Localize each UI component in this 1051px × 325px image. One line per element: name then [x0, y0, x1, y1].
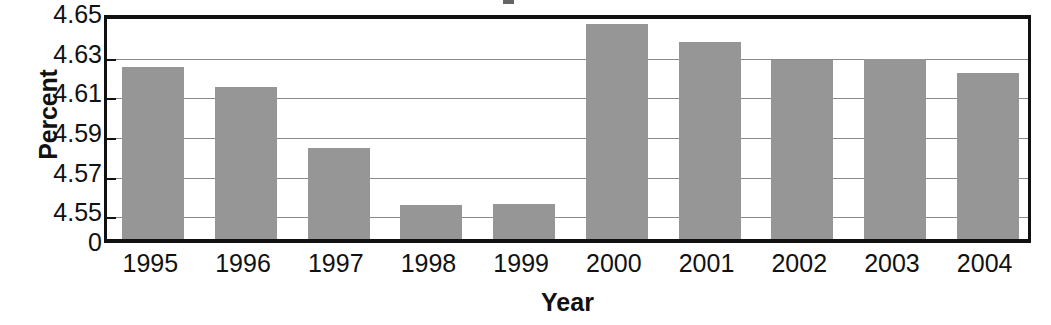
- cut-off-title-fragment: [503, 0, 514, 4]
- x-axis-title: Year: [104, 288, 1031, 317]
- y-axis-tick-mark: [107, 59, 116, 61]
- y-axis-tick-mark: [107, 98, 116, 100]
- x-axis-tick-labels: 1995199619971998199920002001200220032004: [104, 249, 1031, 285]
- x-axis-tick-label: 1997: [289, 249, 382, 278]
- bar: [586, 24, 648, 239]
- bar: [864, 59, 926, 239]
- y-axis-tick-label: 0: [36, 230, 102, 255]
- x-axis-tick-label: 1995: [104, 249, 197, 278]
- y-axis-tick-mark: [107, 178, 116, 180]
- x-axis-tick-label: 1999: [475, 249, 568, 278]
- x-axis-tick-label: 2000: [568, 249, 661, 278]
- y-axis-tick-mark: [107, 217, 116, 219]
- y-axis-tick-label: 4.57: [36, 161, 102, 186]
- bar: [493, 204, 555, 239]
- y-axis-tick-mark: [107, 138, 116, 140]
- x-axis-tick-label: 1998: [382, 249, 475, 278]
- bars-layer: [107, 19, 1028, 239]
- bar: [215, 87, 277, 239]
- bar: [400, 205, 462, 239]
- bar: [679, 42, 741, 239]
- y-axis-tick-label: 4.63: [36, 42, 102, 67]
- x-axis-tick-label: 1996: [197, 249, 290, 278]
- x-axis-tick-label: 2002: [753, 249, 846, 278]
- y-axis-tick-label: 4.55: [36, 200, 102, 225]
- x-axis-tick-label: 2004: [938, 249, 1031, 278]
- y-axis-tick-label: 4.65: [36, 2, 102, 27]
- x-axis-tick-label: 2001: [660, 249, 753, 278]
- bar-chart: Percent 4.654.634.614.594.574.550 199519…: [0, 0, 1051, 325]
- bar: [771, 60, 833, 239]
- y-axis-tick-labels: 4.654.634.614.594.574.550: [36, 0, 102, 260]
- plot-area: [104, 15, 1031, 243]
- y-axis-tick-label: 4.61: [36, 81, 102, 106]
- x-axis-tick-label: 2003: [846, 249, 939, 278]
- bar: [122, 67, 184, 239]
- y-axis-tick-label: 4.59: [36, 121, 102, 146]
- bar: [957, 73, 1019, 239]
- bar: [308, 148, 370, 239]
